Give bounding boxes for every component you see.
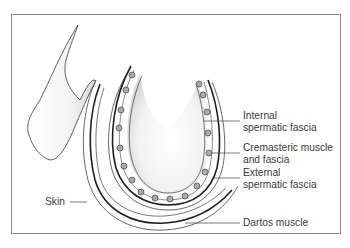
label-skin: Skin xyxy=(45,196,65,208)
label-line: Cremasteric muscle xyxy=(243,142,333,154)
label-external-spermatic-fascia: External spermatic fascia xyxy=(243,167,317,190)
label-line: spermatic fascia xyxy=(243,179,317,191)
label-cremasteric-muscle: Cremasteric muscle and fascia xyxy=(243,142,333,165)
label-line: spermatic fascia xyxy=(243,122,317,134)
label-line: and fascia xyxy=(243,154,333,166)
label-internal-spermatic-fascia: Internal spermatic fascia xyxy=(243,110,317,133)
label-dartos-muscle: Dartos muscle xyxy=(243,217,308,229)
label-line: Dartos muscle xyxy=(243,217,308,229)
penis-shape xyxy=(28,25,96,160)
label-line: External xyxy=(243,167,317,179)
label-line: Internal xyxy=(243,110,317,122)
label-line: Skin xyxy=(45,196,65,208)
